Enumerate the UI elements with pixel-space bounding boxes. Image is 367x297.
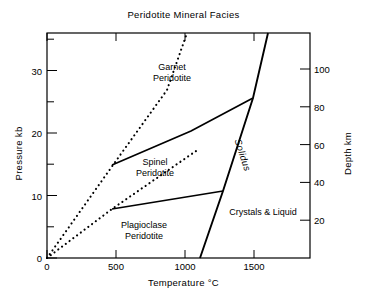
annotation-spinel-line2: Peridotite: [136, 168, 174, 179]
y2-tick-label-80: 80: [314, 101, 325, 112]
y2-tick-label-100: 100: [314, 64, 330, 75]
y2-tick-label-40: 40: [314, 177, 325, 188]
x-tick-label-1500: 1500: [243, 261, 264, 272]
x-tick-label-1000: 1000: [174, 261, 195, 272]
annotation-garnet-peridotite: Garnet Peridotite: [153, 62, 191, 84]
plot-area: [0, 0, 367, 297]
y-tick-label-0: 0: [20, 253, 42, 264]
x-tick-label-500: 500: [108, 261, 124, 272]
annotation-plagioclase-line1: Plagioclase: [121, 220, 167, 231]
annotation-garnet-line2: Peridotite: [153, 73, 191, 84]
series-plagioclase-spinel-solid: [112, 191, 223, 209]
annotation-spinel-peridotite: Spinel Peridotite: [136, 157, 174, 179]
y-axis-left-ticks: [47, 39, 57, 258]
series-spinel-garnet-solid: [112, 98, 253, 165]
annotation-crystals-and-liquid: Crystals & Liquid: [229, 207, 297, 218]
annotation-plagioclase-peridotite: Plagioclase Peridotite: [121, 220, 167, 242]
y2-tick-label-20: 20: [314, 215, 325, 226]
y-axis-title: Pressure kb: [13, 104, 24, 204]
y2-axis-title: Depth km: [342, 104, 353, 204]
annotation-garnet-line1: Garnet: [153, 62, 191, 73]
y-tick-label-30: 30: [20, 65, 42, 76]
y2-tick-label-60: 60: [314, 139, 325, 150]
annotation-spinel-line1: Spinel: [136, 157, 174, 168]
x-axis-title: Temperature °C: [0, 277, 367, 288]
x-tick-label-0: 0: [44, 261, 49, 272]
y-axis-right-ticks: [300, 69, 310, 220]
peridotite-mineral-facies-chart: Peridotite Mineral Facies: [0, 0, 367, 297]
annotation-plagioclase-line2: Peridotite: [121, 231, 167, 242]
